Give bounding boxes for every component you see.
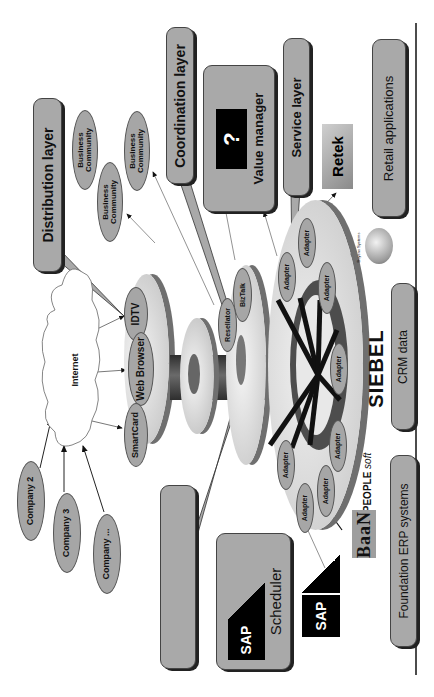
baan-logo: BaaN [352,510,376,558]
adapter-5: Adapter [329,420,347,472]
business-process-management-label [160,485,196,669]
channel-smartcard[interactable]: SmartCard [124,403,148,467]
adapter-6: Adapter [277,440,295,490]
sap-logo: SAP [302,555,340,655]
adapter-8: Adapter [296,483,314,533]
siebel-logo: SIEBEL [364,318,388,418]
sap-logo-block: SAP [228,620,265,660]
sphere-logo [365,228,393,264]
adapter-2: Adapter [298,218,316,268]
crm-data-box: CRM data [391,283,415,430]
sphere-caption: Buyens Systems [355,232,363,262]
channel-web-browser[interactable]: Web Browser [128,332,154,406]
adapter-7: Adapter [317,465,335,517]
sap-scheduler-box: SAP Scheduler [216,533,291,670]
sap-logo-triangle [228,582,265,620]
node-resellator: Resellator [218,298,237,352]
adapter-3: Adapter [318,262,336,314]
adapter-4: Adapter [330,343,348,395]
adapter-1: Adapter [278,252,296,302]
peoplesoft-logo: PEOPLE soft [358,462,378,502]
foundation-erp-box: Foundation ERP systems [390,455,417,647]
